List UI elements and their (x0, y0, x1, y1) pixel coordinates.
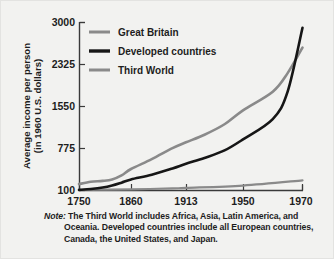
y-ticks (80, 23, 86, 191)
x-tick-label-1950: 1950 (231, 195, 255, 207)
note-label: Note: (44, 211, 66, 221)
y-axis-title-line2: (in 1960 U.S. dollars) (32, 59, 43, 153)
chart-figure: 3000 2325 1550 775 100 1750 1860 1913 19… (0, 0, 334, 259)
chart-note: Note: The Third World includes Africa, A… (44, 211, 316, 245)
y-tick-label-775: 775 (57, 142, 75, 154)
legend-label-great-britain: Great Britain (118, 27, 179, 38)
y-axis-title: Average income per person (in 1960 U.S. … (21, 43, 43, 169)
y-tick-label-3000: 3000 (52, 16, 76, 28)
y-tick-label-1550: 1550 (52, 100, 76, 112)
x-tick-label-1970: 1970 (289, 195, 313, 207)
legend-label-third-world: Third World (118, 65, 174, 76)
x-tick-label-1750: 1750 (67, 195, 91, 207)
y-axis-title-line1: Average income per person (21, 43, 32, 169)
legend-label-developed-countries: Developed countries (118, 46, 217, 57)
x-tick-label-1913: 1913 (174, 195, 198, 207)
note-text: The Third World includes Africa, Asia, L… (64, 211, 313, 244)
y-tick-label-2325: 2325 (52, 58, 76, 70)
x-tick-label-1860: 1860 (119, 195, 143, 207)
chart-legend: Great BritainDeveloped countriesThird Wo… (89, 27, 217, 76)
